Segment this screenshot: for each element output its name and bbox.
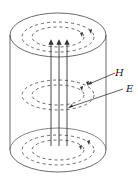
h-loops-top <box>22 22 94 52</box>
h-field-label: H <box>115 68 124 78</box>
cylinder-outline <box>10 13 106 172</box>
cylinder-diagram <box>0 0 138 179</box>
e-field-label: E <box>126 84 133 94</box>
h-loop-arrows-middle <box>80 81 89 91</box>
h-loops-middle <box>22 80 94 110</box>
h-loop-arrows-top <box>80 29 92 37</box>
h-loop-arrows-bottom <box>79 140 90 150</box>
h-loops-bottom <box>22 135 94 165</box>
label-leaders <box>70 73 123 107</box>
e-field-arrows <box>51 42 67 146</box>
